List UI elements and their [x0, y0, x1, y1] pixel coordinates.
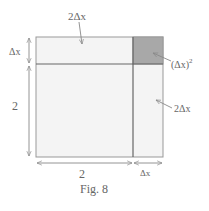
- corner-square: [133, 37, 163, 64]
- label-top-strip: 2Δx: [68, 10, 87, 22]
- label-corner-square: (Δx)2: [171, 57, 193, 71]
- label-right-strip: 2Δx: [174, 103, 190, 114]
- label-bottom-main-dim: 2: [79, 167, 85, 181]
- figure-diagram: 2Δx (Δx)2 2Δx Δx 2 2 Δx Fig. 8: [0, 0, 209, 211]
- label-left-main-dim: 2: [12, 99, 18, 113]
- label-left-top-dim: Δx: [9, 46, 20, 57]
- label-bottom-right-dim: Δx: [140, 168, 151, 178]
- figure-caption: Fig. 8: [80, 182, 108, 196]
